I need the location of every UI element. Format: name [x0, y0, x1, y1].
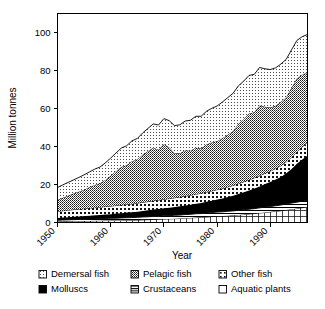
- legend-item-crustaceans[interactable]: Crustaceans: [131, 283, 197, 294]
- chart-canvas: 020406080100 19501960197019801990 Millio…: [0, 0, 325, 309]
- legend-swatch-solid-black-icon: [39, 286, 47, 294]
- legend-item-pelagic-fish[interactable]: Pelagic fish: [131, 268, 192, 279]
- x-tick-label: 1970: [141, 225, 164, 248]
- legend-label: Demersal fish: [51, 268, 109, 279]
- legend-label: Molluscs: [51, 283, 88, 294]
- x-axis-ticks: 19501960197019801990: [34, 223, 270, 248]
- y-tick-label: 80: [40, 65, 51, 76]
- legend-label: Aquatic plants: [231, 283, 291, 294]
- legend-swatch-coarse-dots-icon: [219, 271, 227, 279]
- y-tick-label: 100: [35, 27, 51, 38]
- y-tick-label: 20: [40, 179, 51, 190]
- chart-legend: Demersal fishPelagic fishOther fishMollu…: [39, 268, 291, 294]
- legend-label: Pelagic fish: [143, 268, 192, 279]
- legend-swatch-dense-dots-gray-icon: [131, 271, 139, 279]
- y-axis-title: Million tonnes: [7, 87, 18, 148]
- legend-label: Other fish: [231, 268, 272, 279]
- x-tick-label: 1980: [194, 225, 217, 248]
- legend-swatch-horizontal-lines-icon: [131, 286, 139, 294]
- legend-label: Crustaceans: [143, 283, 197, 294]
- x-tick-label: 1960: [87, 225, 110, 248]
- y-tick-label: 40: [40, 141, 51, 152]
- y-axis-ticks: 020406080100: [35, 27, 58, 228]
- x-tick-label: 1950: [34, 225, 57, 248]
- legend-swatch-grid-icon: [219, 286, 227, 294]
- legend-item-other-fish[interactable]: Other fish: [219, 268, 272, 279]
- legend-swatch-fine-dots-icon: [39, 271, 47, 279]
- x-tick-label: 1990: [247, 225, 270, 248]
- y-tick-label: 60: [40, 103, 51, 114]
- chart-figure: 020406080100 19501960197019801990 Millio…: [0, 0, 325, 309]
- x-axis-title: Year: [172, 250, 193, 261]
- legend-item-aquatic-plants[interactable]: Aquatic plants: [219, 283, 291, 294]
- legend-item-molluscs[interactable]: Molluscs: [39, 283, 88, 294]
- legend-item-demersal-fish[interactable]: Demersal fish: [39, 268, 109, 279]
